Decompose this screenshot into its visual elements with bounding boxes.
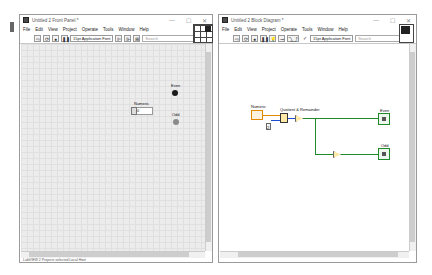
pause-icon[interactable]: ❚❚ [61,35,68,42]
close-button[interactable]: ✕ [400,17,416,24]
odd-led-indicator[interactable] [173,119,179,125]
boolean-wire[interactable] [315,154,333,155]
quotient-remainder-label: Quotient & Remainder [280,107,320,112]
menu-operate[interactable]: Operate [281,27,297,32]
status-bar: LabVIEW 2 Projects selected Local Host [23,258,86,262]
menu-help[interactable]: Help [140,27,149,32]
equal-to-zero-function[interactable] [295,115,303,122]
wire[interactable] [271,120,280,121]
vi-icon-glyph [401,26,410,34]
menu-edit[interactable]: Edit [234,27,242,32]
labview-icon [23,17,29,23]
quotient-remainder-function[interactable] [280,113,288,123]
boolean-wire[interactable] [315,118,316,154]
window-title: Untitled 2 Front Panel * [32,18,164,23]
font-selector[interactable]: 15pt Application Font [70,35,113,42]
minimize-button[interactable]: — [164,17,180,23]
clean-up-diagram-icon[interactable]: ✓ [301,35,308,42]
menu-project[interactable]: Project [63,27,77,32]
menu-window[interactable]: Window [119,27,135,32]
abort-icon[interactable]: ● [52,35,59,42]
labview-icon [222,17,228,23]
wire[interactable] [263,115,280,116]
horizontal-scrollbar[interactable] [220,251,409,258]
menu-bar: File Edit View Project Operate Tools Win… [20,25,212,33]
window-title: Untitled 2 Block Diagram * [231,18,368,23]
menu-help[interactable]: Help [339,27,348,32]
boolean-wire[interactable] [341,154,380,155]
not-function[interactable] [333,151,341,158]
close-button[interactable]: ✕ [196,17,212,24]
odd-indicator-terminal[interactable] [378,148,390,160]
menu-file[interactable]: File [23,27,30,32]
block-diagram-canvas[interactable]: Numeric 2 Quotient & Remainder Even Odd [220,44,409,251]
menu-operate[interactable]: Operate [82,27,98,32]
resize-objects-icon[interactable]: ⊞ [133,35,140,42]
even-indicator-terminal[interactable] [378,113,390,125]
font-selector[interactable]: 15pt Application Font [310,35,353,42]
title-bar[interactable]: Untitled 2 Block Diagram * — ☐ ✕ [219,15,416,25]
vi-icon [205,26,211,32]
search-input[interactable]: Search⚲ [355,35,405,42]
title-bar[interactable]: Untitled 2 Front Panel * — ☐ ✕ [20,15,212,25]
numeric-control[interactable]: 0 [131,107,153,115]
menu-window[interactable]: Window [318,27,334,32]
numeric-control-terminal[interactable] [251,110,263,120]
scroll-thumb[interactable] [206,52,211,242]
maximize-button[interactable]: ☐ [180,17,196,24]
pause-icon[interactable]: ❚❚ [260,35,267,42]
even-label: Even [171,83,180,88]
abort-icon[interactable]: ● [251,35,258,42]
front-panel-canvas[interactable]: Numeric 0 Even Odd [21,44,205,251]
vertical-scrollbar[interactable] [205,44,212,251]
scroll-thumb[interactable] [29,252,189,257]
minimize-button[interactable]: — [368,17,384,23]
odd-label: Odd [172,112,180,117]
numeric-label: Numeric [134,101,149,106]
highlight-execution-icon[interactable]: 💡 [269,35,276,42]
scroll-thumb[interactable] [238,252,398,257]
menu-tools[interactable]: Tools [103,27,114,32]
run-continuously-icon[interactable]: ⟳ [43,35,50,42]
block-diagram-window: Untitled 2 Block Diagram * — ☐ ✕ File Ed… [218,14,417,263]
menu-bar: File Edit View Project Operate Tools Win… [219,25,416,33]
scroll-thumb[interactable] [410,52,415,242]
even-led-indicator[interactable] [172,90,178,96]
maximize-button[interactable]: ☐ [384,17,400,24]
toolbar: ⇨ ⟳ ● ❚❚ 15pt Application Font ⊫ ⊪ ⊞ Sea… [20,33,212,44]
align-objects-icon[interactable]: ⊫ [115,35,122,42]
connector-pane-icon[interactable] [193,24,213,43]
run-arrow-icon[interactable]: ⇨ [233,35,240,42]
numeric-constant[interactable]: 2 [266,123,271,130]
menu-project[interactable]: Project [262,27,276,32]
menu-view[interactable]: View [48,27,58,32]
front-panel-window: Untitled 2 Front Panel * — ☐ ✕ File Edit… [19,14,213,263]
distribute-objects-icon[interactable]: ⊪ [124,35,131,42]
menu-edit[interactable]: Edit [35,27,43,32]
menu-view[interactable]: View [247,27,257,32]
wire[interactable] [288,118,295,119]
numeric-terminal-label: Numeric [251,104,266,109]
run-arrow-icon[interactable]: ⇨ [34,35,41,42]
desktop-edge-tab [10,22,14,32]
retain-wire-values-icon[interactable]: ⊸ [278,35,285,42]
vertical-scrollbar[interactable] [409,44,416,251]
run-continuously-icon[interactable]: ⟳ [242,35,249,42]
menu-file[interactable]: File [222,27,229,32]
horizontal-scrollbar[interactable] [21,251,205,258]
step-icons[interactable]: ⤵⤴ [287,35,299,42]
toolbar: ⇨ ⟳ ● ❚❚ 💡 ⊸ ⤵⤴ ✓ 15pt Application Font … [219,33,416,44]
menu-tools[interactable]: Tools [302,27,313,32]
vi-icon[interactable] [399,24,414,43]
